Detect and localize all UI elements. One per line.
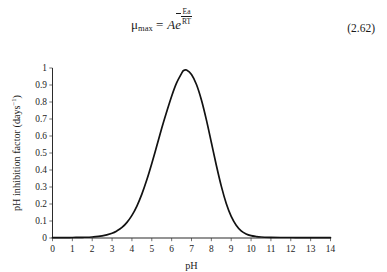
equals-sign: =: [156, 17, 163, 32]
y-tick-label: 1: [42, 63, 47, 73]
x-tick-label: 5: [149, 244, 154, 254]
x-tick-label: 6: [169, 244, 174, 254]
ph-inhibition-plot: 00.10.20.30.40.50.60.70.80.91 0123456789…: [0, 50, 387, 272]
mu-symbol: μ: [131, 17, 138, 32]
exponent-numerator: Ea: [181, 8, 192, 16]
y-tick-label: 0.5: [35, 148, 47, 158]
x-tick-label: 7: [189, 244, 194, 254]
x-tick-label: 1: [70, 244, 75, 254]
x-tick-label: 9: [229, 244, 234, 254]
x-tick-label: 12: [286, 244, 296, 254]
equation-block: μmax=Ae Ea RT (2.62): [0, 0, 387, 46]
chart-figure: 00.10.20.30.40.50.60.70.80.91 0123456789…: [0, 50, 387, 272]
y-tick-label: 0.6: [35, 131, 47, 141]
inhibition-curve: [53, 70, 331, 238]
y-tick-label: 0.7: [35, 114, 47, 124]
x-tick-label: 8: [209, 244, 214, 254]
y-tick-label: 0.9: [35, 80, 47, 90]
y-tick-label: 0: [42, 233, 47, 243]
exponent-minus-sign: [176, 13, 181, 14]
x-tick-label: 2: [90, 244, 95, 254]
exponent-fraction: Ea RT: [181, 8, 192, 26]
x-tick-label: 4: [130, 244, 135, 254]
x-tick-label: 14: [326, 244, 336, 254]
equation-number: (2.62): [347, 22, 375, 34]
x-axis-title: pH: [185, 260, 198, 271]
mu-subscript: max: [138, 24, 153, 34]
y-tick-label: 0.4: [35, 165, 47, 175]
x-tick-label: 13: [306, 244, 316, 254]
y-axis-ticks: 00.10.20.30.40.50.60.70.80.91: [35, 63, 52, 243]
x-tick-label: 3: [110, 244, 115, 254]
x-tick-label: 0: [50, 244, 55, 254]
y-axis-title: pH inhibition factor (days−1): [10, 95, 22, 211]
y-tick-label: 0.3: [35, 182, 47, 192]
x-axis-ticks: 01234567891011121314: [50, 238, 335, 254]
y-tick-label: 0.2: [35, 199, 47, 209]
y-tick-label: 0.8: [35, 97, 47, 107]
y-tick-label: 0.1: [35, 216, 47, 226]
exponent-denominator: RT: [181, 18, 192, 26]
x-tick-label: 11: [266, 244, 275, 254]
equation-expression: μmax=Ae Ea RT: [131, 8, 192, 33]
equation-lhs: μmax: [131, 17, 153, 32]
x-tick-label: 10: [246, 244, 256, 254]
